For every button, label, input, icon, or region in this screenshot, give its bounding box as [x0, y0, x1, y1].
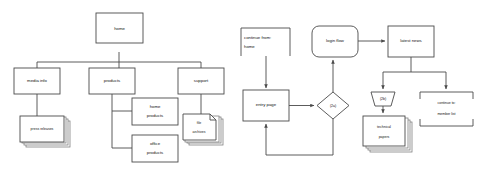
node-home-label: home: [114, 26, 125, 31]
offpage-continue-to-line1: continue to:: [437, 101, 455, 105]
node-login-flow[interactable]: login flow: [312, 26, 358, 57]
node-home-products[interactable]: home products: [132, 98, 178, 125]
node-latest-news[interactable]: latest news: [388, 26, 434, 57]
node-support[interactable]: support: [178, 68, 224, 94]
node-entry-page-label: entry page: [256, 102, 277, 107]
diagram-canvas: home media info products support: [0, 0, 481, 181]
node-decision-label: (2a): [330, 104, 336, 108]
node-home-products-label-line1: home: [150, 104, 161, 109]
node-technical-papers-line1: technical: [377, 125, 391, 129]
node-file-archives-label-line1: file: [197, 121, 202, 125]
offpage-continue-to-line2: member list: [437, 112, 455, 116]
node-products[interactable]: products: [89, 68, 135, 94]
node-file-archives-label-line2: archives: [192, 130, 205, 134]
node-technical-papers[interactable]: technical papers: [363, 116, 412, 152]
node-entry-page[interactable]: entry page: [243, 90, 289, 121]
node-technical-papers-line2: papers: [379, 135, 390, 139]
node-gate-label: (2b): [380, 97, 386, 101]
node-home[interactable]: home: [96, 13, 143, 43]
node-products-label: products: [104, 78, 120, 83]
diagram-svg: home media info products support: [0, 0, 481, 181]
node-decision-diamond[interactable]: (2a): [317, 92, 349, 119]
node-press-releases[interactable]: press releases: [20, 116, 70, 147]
node-file-archives[interactable]: file archives: [183, 114, 223, 145]
node-gate-trapezoid[interactable]: (2b): [371, 92, 395, 106]
node-login-flow-label: login flow: [326, 38, 345, 43]
node-media-info[interactable]: media info: [14, 68, 60, 94]
node-office-products-label-line1: office: [150, 141, 161, 146]
node-press-releases-label: press releases: [31, 127, 54, 131]
offpage-continue-from[interactable]: continue from: home: [241, 28, 290, 56]
node-support-label: support: [194, 78, 209, 83]
offpage-continue-from-line2: home: [244, 44, 255, 49]
node-office-products-label-line2: products: [147, 150, 163, 155]
node-media-info-label: media info: [27, 78, 47, 83]
node-office-products[interactable]: office products: [132, 135, 178, 162]
node-latest-news-label: latest news: [400, 38, 422, 43]
node-home-products-label-line2: products: [147, 113, 163, 118]
right-diagram-group: continue from: home login flow latest ne…: [241, 26, 473, 155]
offpage-continue-from-line1: continue from:: [244, 35, 271, 40]
offpage-continue-to[interactable]: continue to: member list: [420, 92, 473, 126]
left-diagram-group: home media info products support: [14, 13, 224, 162]
right-connectors: [266, 41, 446, 155]
